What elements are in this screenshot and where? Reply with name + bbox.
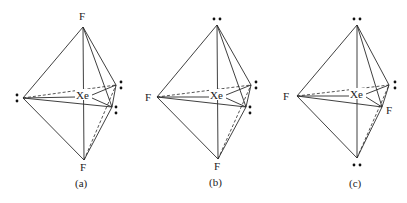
lone-pair-right-back — [120, 81, 123, 90]
right-front-atom-label: F — [386, 104, 392, 116]
bottom-atom-label: F — [214, 160, 220, 172]
lone-pair-right-back — [255, 81, 258, 90]
caption-b: (b) — [209, 176, 222, 189]
lone-pair-left — [16, 94, 19, 103]
structure-b: Xe F F (b) — [145, 18, 257, 189]
bottom-atom-label: F — [80, 161, 86, 173]
left-atom-label: F — [145, 91, 151, 103]
lone-pair-right-front — [115, 106, 118, 115]
xef2-trigonal-bipyramid-figure: Xe F F (a) Xe — [0, 0, 407, 203]
lone-pair-right-front — [249, 106, 252, 115]
lone-pair-top — [353, 18, 362, 21]
structure-a: Xe F F (a) — [16, 10, 123, 190]
lone-pair-right-back — [394, 81, 397, 90]
structure-c: Xe F F (c) — [283, 18, 396, 190]
caption-a: (a) — [75, 177, 88, 190]
lone-pair-top — [213, 18, 222, 21]
lone-pair-bottom — [353, 164, 362, 167]
top-atom-label: F — [79, 10, 85, 22]
center-atom-label: Xe — [350, 88, 363, 100]
center-atom-label: Xe — [76, 89, 89, 101]
caption-c: (c) — [349, 177, 362, 190]
center-atom-label: Xe — [210, 89, 223, 101]
left-atom-label: F — [283, 90, 289, 102]
